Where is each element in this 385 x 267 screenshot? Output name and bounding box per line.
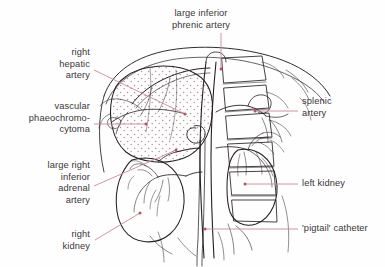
- label-line: large inferior: [138, 8, 264, 20]
- right-kidney-outline: [116, 158, 184, 242]
- leader-dot-splenic-artery: [254, 110, 257, 113]
- label-line: cytoma: [6, 124, 90, 136]
- label-large-right-inferior-adrenal-artery: large rightinferioradrenalartery: [10, 160, 90, 206]
- label-line: vascular: [6, 101, 90, 113]
- right-body-wall: [100, 96, 105, 172]
- leader-dot-right-hepatic-artery: [184, 113, 187, 116]
- label-right-kidney: rightkidney: [28, 229, 90, 252]
- label-line: left kidney: [302, 178, 380, 190]
- label-line: phrenic artery: [138, 20, 264, 32]
- label-right-hepatic-artery: righthepaticartery: [12, 47, 90, 82]
- label-line: artery: [10, 195, 90, 207]
- label-line: large right: [10, 160, 90, 172]
- leader-dot-large-inferior-phrenic-artery: [220, 68, 223, 71]
- label-line: hepatic: [12, 59, 90, 71]
- leader-dot-left-kidney: [244, 183, 247, 186]
- label-pigtail-catheter: 'pigtail' catheter: [302, 223, 385, 235]
- label-line: adrenal: [10, 183, 90, 195]
- left-kidney-outline: [227, 149, 277, 225]
- leader-line-right-kidney: [95, 213, 140, 240]
- anatomical-figure: large inferiorphrenic arteryrighthepatic…: [0, 0, 385, 267]
- label-line: splenic: [302, 96, 380, 108]
- label-line: phaeochromo-: [6, 113, 90, 125]
- label-splenic-artery: splenicartery: [302, 96, 380, 119]
- vertebral-column: [222, 56, 291, 222]
- label-line: kidney: [28, 241, 90, 253]
- label-left-kidney: left kidney: [302, 178, 380, 190]
- label-line: artery: [12, 70, 90, 82]
- anatomy-linework: [99, 47, 330, 266]
- label-line: inferior: [10, 172, 90, 184]
- leader-dot-pigtail-catheter: [204, 228, 207, 231]
- label-line: right: [12, 47, 90, 59]
- catheter-shaft: [197, 140, 200, 266]
- leader-dot-vascular-phaeochromocytoma: [145, 123, 148, 126]
- label-line: artery: [302, 108, 380, 120]
- label-large-inferior-phrenic-artery: large inferiorphrenic artery: [138, 8, 264, 31]
- leader-dot-right-kidney: [139, 212, 142, 215]
- label-line: 'pigtail' catheter: [302, 223, 385, 235]
- label-vascular-phaeochromocytoma: vascularphaeochromo-cytoma: [6, 101, 90, 136]
- leader-dot-large-right-inferior-adrenal-artery: [175, 149, 178, 152]
- label-line: right: [28, 229, 90, 241]
